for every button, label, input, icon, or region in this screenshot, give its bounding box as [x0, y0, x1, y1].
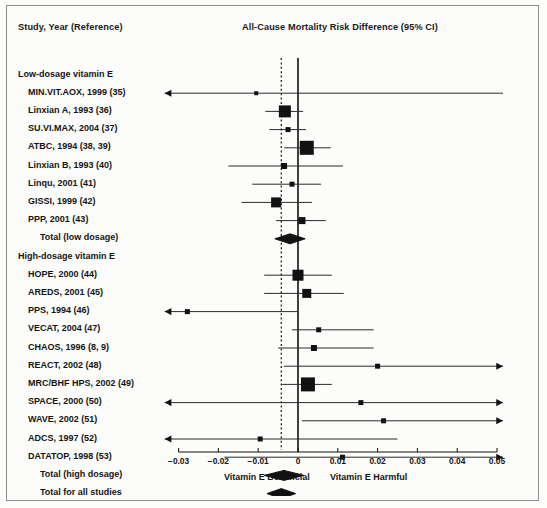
x-tick-label: −0.01 [238, 456, 278, 466]
x-tick-label: 0.05 [477, 456, 517, 466]
x-tick-label: 0.01 [318, 456, 358, 466]
x-tick-label: 0.04 [437, 456, 477, 466]
x-tick-label: 0.02 [358, 456, 398, 466]
footer-harmful: Vitamin E Harmful [330, 472, 407, 482]
footer-beneficial: Vitamin E Beneficial [224, 472, 310, 482]
x-tick-label: −0.03 [159, 456, 199, 466]
forest-plot-canvas [0, 0, 533, 496]
x-tick-label: −0.02 [198, 456, 238, 466]
figure-page: Study, Year (Reference) All-Cause Mortal… [0, 0, 547, 508]
x-tick-label: 0.03 [397, 456, 437, 466]
x-tick-label: 0 [278, 456, 318, 466]
